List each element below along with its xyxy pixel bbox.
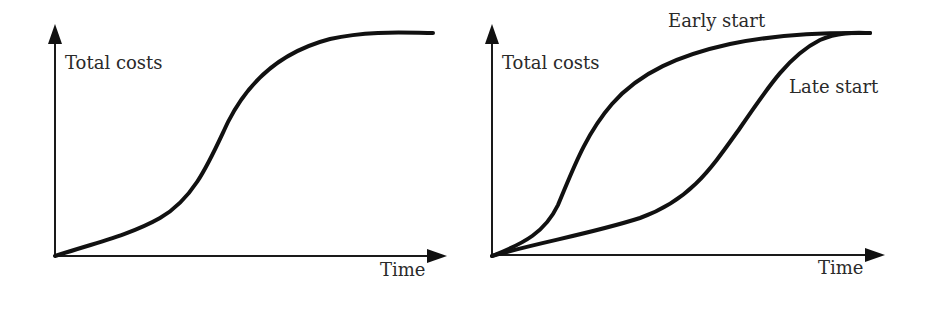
left-x-axis-arrow-icon — [427, 249, 447, 263]
right-x-axis-label: Time — [818, 259, 863, 277]
left-x-axis-label: Time — [380, 261, 425, 279]
right-x-axis-arrow-icon — [865, 248, 885, 262]
right-y-axis-arrow-icon — [485, 24, 499, 44]
figure: Total costs Time Total costs Time Early … — [0, 0, 931, 309]
right-y-axis-label: Total costs — [502, 54, 600, 72]
late-start-label: Late start — [789, 78, 878, 96]
left-y-axis-label: Total costs — [65, 54, 163, 72]
s-curve-diagrams — [0, 0, 931, 309]
left-y-axis-arrow-icon — [48, 24, 62, 44]
early-start-label: Early start — [668, 12, 765, 30]
